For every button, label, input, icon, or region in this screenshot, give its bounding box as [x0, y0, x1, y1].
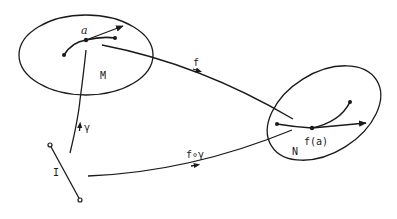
curve-n-end-dot: [348, 100, 352, 104]
interval-i: I: [48, 143, 82, 202]
curve-in-n: f(a): [275, 100, 366, 147]
diagram-canvas: M a f N f(a) γ I: [0, 0, 397, 219]
map-gamma: γ: [70, 50, 90, 153]
map-gamma-arrowhead-icon: [80, 125, 81, 131]
map-f: f: [102, 45, 293, 119]
manifold-m-label: M: [100, 70, 106, 81]
curve-in-m: a: [62, 24, 123, 57]
map-gamma-label: γ: [84, 122, 90, 133]
map-f-gamma-arrowhead-icon: [191, 165, 197, 166]
interval-i-label: I: [53, 167, 59, 178]
map-f-label: f: [193, 57, 199, 68]
curve-n-start-dot: [275, 122, 279, 126]
curve-through-fa: [277, 102, 350, 128]
map-gamma-arrow: [70, 50, 86, 153]
interval-i-start: [48, 143, 52, 147]
curve-start-dot: [62, 53, 66, 57]
manifold-n-label: N: [292, 146, 298, 157]
manifold-n-boundary: [250, 46, 397, 180]
map-f-gamma-label: f∘γ: [186, 149, 204, 160]
point-a-label: a: [81, 24, 88, 37]
manifold-n: N: [250, 46, 397, 180]
map-f-gamma: f∘γ: [88, 130, 292, 176]
point-fa-label: f(a): [304, 136, 328, 147]
interval-i-end: [78, 198, 82, 202]
curve-end-dot: [113, 36, 117, 40]
